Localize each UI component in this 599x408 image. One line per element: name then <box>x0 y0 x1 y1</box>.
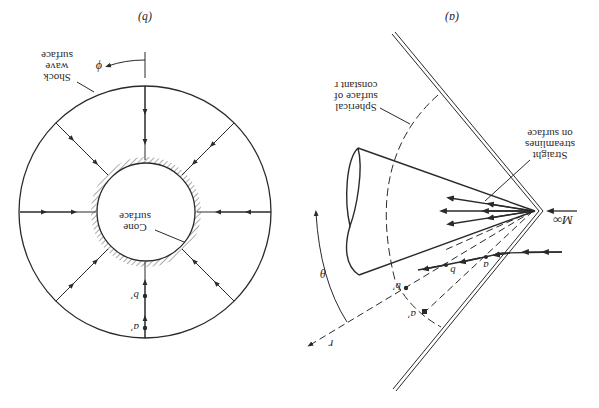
svg-text:surface: surface <box>41 50 73 62</box>
surface-streamlines <box>443 198 533 224</box>
label-a-prime-b: a′ <box>130 322 139 334</box>
panel-a-caption: (a) <box>445 11 459 25</box>
label-phi: ϕ <box>96 60 102 74</box>
cone-label: Cone surface <box>119 211 151 234</box>
panel-b-caption: (b) <box>138 11 152 25</box>
cone-leader-line <box>155 230 184 242</box>
phi-arc <box>108 60 145 66</box>
panel-a: (a) <box>310 11 577 391</box>
label-theta: θ <box>320 266 326 280</box>
spherical-label: Spherical surface of constant r <box>334 80 378 114</box>
label-mach-infinity: M∞ <box>553 213 574 228</box>
shock-leader-line <box>77 82 94 92</box>
point-a <box>484 255 488 259</box>
streamlines-label: Straight streamlines on surface <box>525 128 575 162</box>
streamlines-leader-line <box>485 160 530 201</box>
shock-label: Shock wave surface <box>41 50 73 84</box>
conical-flow-figure: (b) <box>0 0 599 408</box>
panel-b: (b) <box>19 11 271 338</box>
label-a-prime: a′ <box>407 309 416 321</box>
point-a-prime <box>422 309 427 314</box>
spherical-leader-line <box>380 108 410 124</box>
label-b: b <box>450 265 456 277</box>
label-b-prime-b: b′ <box>130 290 139 302</box>
point-b-prime-b <box>143 294 147 298</box>
svg-text:surface: surface <box>119 211 151 223</box>
label-a: a <box>483 260 489 272</box>
point-b-prime <box>404 286 408 290</box>
label-r: r <box>328 337 333 351</box>
point-a-prime-b <box>143 326 147 330</box>
point-b <box>444 263 448 267</box>
svg-text:on surface: on surface <box>527 128 573 140</box>
label-b-prime: b′ <box>392 281 401 293</box>
svg-text:constant r: constant r <box>334 80 377 92</box>
freestream-streamline <box>418 252 562 270</box>
dashed-rays <box>310 211 533 345</box>
